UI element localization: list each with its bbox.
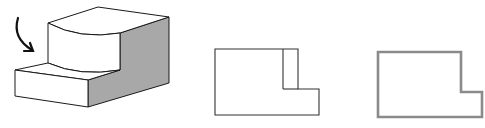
curved-arrow-icon <box>17 18 33 51</box>
front-view-outline <box>215 49 319 115</box>
front-view <box>215 49 319 115</box>
diagram-canvas <box>0 0 485 128</box>
outline-view <box>378 52 482 117</box>
outline-view-shape <box>378 52 482 117</box>
diagram-svg <box>0 0 485 128</box>
isometric-solid <box>15 7 169 107</box>
